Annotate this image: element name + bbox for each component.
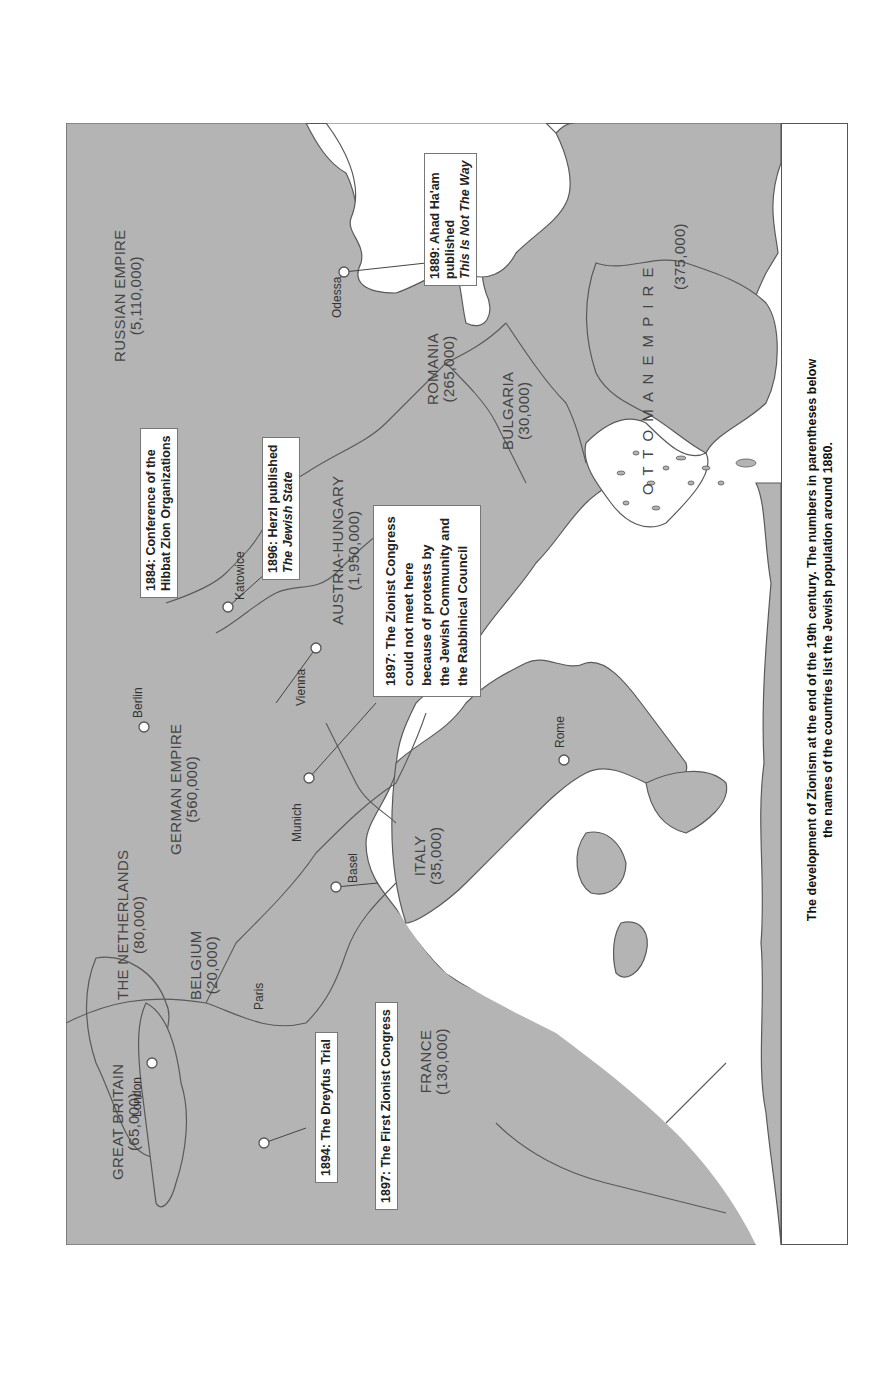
callout-ahad-haam: 1889: Ahad Ha'ampublished This Is Not Th… (424, 153, 477, 286)
city-label-paris: Paris (252, 983, 266, 1010)
country-label-italy: ITALY(35,000) (412, 827, 444, 885)
callout-dreyfus-trial: 1894: The Dreyfus Trial (315, 1032, 338, 1183)
callout-hibbat-zion-conference: 1884: Conference of theHibbat Zion Organ… (140, 428, 178, 598)
city-label-berlin: Berlin (131, 687, 145, 718)
map-caption: The development of Zionism at the end of… (804, 280, 836, 1000)
city-label-odessa: Odessa (330, 277, 344, 318)
country-label-austria-hungary: AUSTRIA-HUNGARY(1,950,000) (330, 476, 362, 625)
callout-first-zionist-congress: 1897: The First Zionist Congress (375, 1002, 398, 1210)
city-label-vienna: Vienna (294, 669, 308, 706)
country-label-belgium: BELGIUM(20,000) (188, 930, 220, 1000)
city-label-munich: Munich (290, 803, 304, 842)
country-label-romania: ROMANIA(265,000) (425, 333, 457, 405)
city-label-rome: Rome (553, 716, 567, 748)
country-population-ottoman-empire: (375,000) (672, 223, 688, 290)
city-label-basel: Basel (346, 853, 360, 883)
city-label-katowice: Katowice (233, 551, 247, 600)
country-label-bulgaria: BULGARIA(30,000) (500, 372, 532, 450)
country-label-german-empire: GERMAN EMPIRE(560,000) (168, 724, 200, 855)
callout-herzl-jewish-state: 1896: Herzl publishedThe Jewish State (262, 437, 300, 580)
country-label-russian-empire: RUSSIAN EMPIRE(5,110,000) (112, 229, 144, 362)
callout-munich-congress-protest: 1897: The Zionist Congresscould not meet… (373, 505, 481, 697)
country-label-the-netherlands: THE NETHERLANDS(80,000) (115, 850, 147, 1000)
country-label-france: FRANCE(130,000) (418, 1028, 450, 1095)
country-label-ottoman-empire: O T T O M A N E M P I R E (640, 265, 656, 495)
city-label-london: London (130, 1077, 144, 1117)
